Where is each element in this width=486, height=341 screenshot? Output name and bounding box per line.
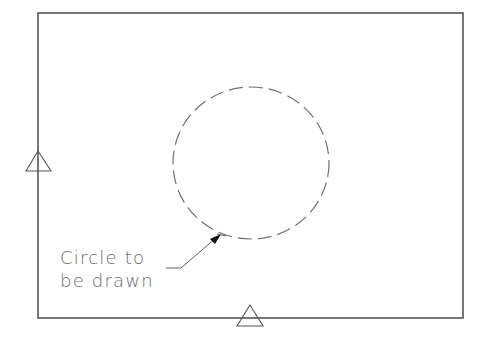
- drawing-canvas: Circle to be drawn: [0, 0, 486, 341]
- dashed-circle: [173, 87, 329, 239]
- callout-label-line1: Circle to: [60, 247, 145, 268]
- callout-label-line2: be drawn: [60, 270, 154, 291]
- bottom-datum-triangle-icon: [237, 305, 263, 326]
- callout-leader-line: [166, 238, 216, 268]
- callout-arrowhead-icon: [210, 234, 221, 244]
